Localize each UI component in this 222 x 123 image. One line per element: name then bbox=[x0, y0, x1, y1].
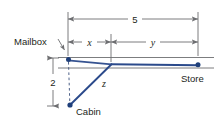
dimension-y: y bbox=[111, 37, 198, 48]
diagonal-z-label: z bbox=[101, 78, 106, 89]
mailbox-label: Mailbox bbox=[14, 36, 47, 47]
dimension-2-label: 2 bbox=[50, 77, 55, 88]
mailbox-leader bbox=[58, 39, 65, 50]
dimension-x: x bbox=[68, 37, 111, 48]
store-label: Store bbox=[181, 73, 204, 84]
dimension-total-length: 5 bbox=[68, 14, 198, 25]
travel-path bbox=[69, 60, 199, 105]
mailbox-point bbox=[66, 57, 71, 62]
cabin-point bbox=[67, 102, 72, 107]
cabin-label: Cabin bbox=[76, 106, 101, 117]
dimension-x-label: x bbox=[86, 37, 92, 48]
road bbox=[58, 58, 214, 69]
diagram-canvas: 5 x y Mailbox 2 bbox=[0, 0, 222, 123]
dimension-total-label: 5 bbox=[132, 14, 137, 25]
path-segment-mailbox-to-junction bbox=[68, 60, 112, 64]
geometry-diagram-svg: 5 x y Mailbox 2 bbox=[0, 0, 222, 123]
path-segment-road bbox=[112, 64, 199, 65]
store-point bbox=[196, 62, 201, 67]
mailbox-leader-line bbox=[58, 39, 65, 50]
dimension-vertical-distance: 2 bbox=[47, 58, 59, 106]
dimension-y-label: y bbox=[150, 37, 156, 48]
